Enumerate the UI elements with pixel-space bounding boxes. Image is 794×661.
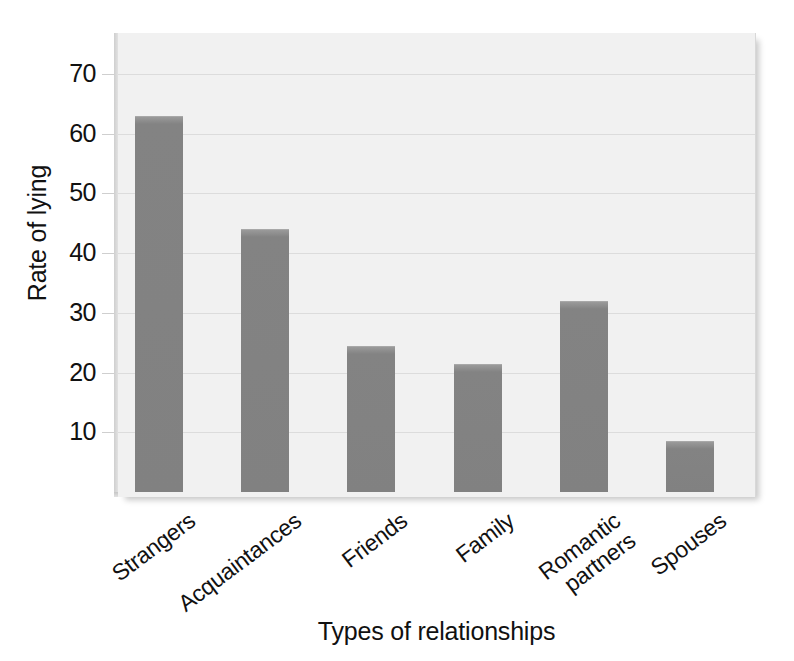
x-axis-title: Types of relationships (118, 618, 755, 644)
gridline (118, 313, 755, 314)
bar-romantic-partners (560, 301, 608, 492)
bar-spouses (666, 441, 714, 492)
bar-chart-figure: Rate of lying 10203040506070 StrangersAc… (0, 0, 794, 661)
gridline (118, 134, 755, 135)
bar-friends (347, 346, 395, 492)
gridline (118, 193, 755, 194)
gridline (118, 432, 755, 433)
y-axis-tick-mark (102, 134, 114, 135)
y-axis-tick-mark (102, 74, 114, 75)
plot-inner (118, 33, 755, 497)
y-axis-tick-label: 20 (0, 360, 96, 385)
y-axis-tick-mark (102, 373, 114, 374)
y-axis-tick-mark (102, 193, 114, 194)
y-axis-tick-label: 30 (0, 300, 96, 325)
bar-acquaintances (241, 229, 289, 492)
y-axis-tick-label: 60 (0, 121, 96, 146)
y-axis-tick-mark (102, 313, 114, 314)
plot-area (118, 33, 756, 497)
y-axis-tick-label: 10 (0, 419, 96, 444)
gridline (118, 74, 755, 75)
gridline (118, 373, 755, 374)
y-axis-tick-label: 70 (0, 61, 96, 86)
y-axis-tick-label: 40 (0, 240, 96, 265)
gridline (118, 253, 755, 254)
y-axis-tick-mark (102, 253, 114, 254)
bar-family (454, 364, 502, 492)
y-axis-tick-label: 50 (0, 180, 96, 205)
y-axis-tick-mark (102, 432, 114, 433)
bar-strangers (135, 116, 183, 492)
